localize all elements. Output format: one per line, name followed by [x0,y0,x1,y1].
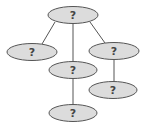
node-middle: ? [49,62,97,79]
node-label: ? [110,84,116,97]
node-label: ? [70,9,76,22]
node-left: ? [7,44,57,61]
edge-root-to-right [90,22,105,43]
node-label: ? [111,45,117,58]
node-bottom: ? [49,105,97,122]
node-label: ? [70,107,76,120]
node-root: ? [48,7,98,24]
edge-root-to-left [42,22,55,44]
node-label: ? [70,64,76,77]
nodes-group: ?????? [7,7,139,122]
node-label: ? [29,46,35,59]
node-right: ? [89,43,139,60]
tree-diagram: ?????? [0,0,146,129]
node-right-bottom: ? [89,82,137,99]
